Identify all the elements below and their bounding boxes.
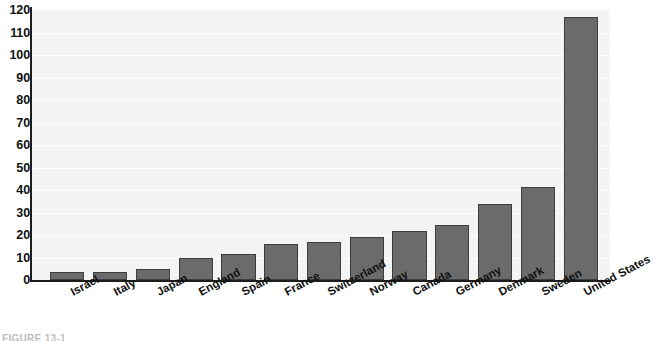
y-axis-tick-label: 80 bbox=[0, 94, 30, 107]
y-axis-tick-label: 100 bbox=[0, 49, 30, 62]
y-axis-tick-label: 10 bbox=[0, 251, 30, 264]
bar bbox=[264, 244, 298, 280]
y-axis-tick-labels: 0102030405060708090100110120 bbox=[0, 0, 30, 290]
bar bbox=[564, 17, 598, 280]
y-axis-tick-label: 60 bbox=[0, 139, 30, 152]
y-axis-tick-label: 110 bbox=[0, 26, 30, 39]
y-axis-tick-label: 70 bbox=[0, 116, 30, 129]
y-axis-tick-label: 120 bbox=[0, 4, 30, 17]
y-axis-tick-label: 90 bbox=[0, 71, 30, 84]
y-axis-tick-label: 40 bbox=[0, 184, 30, 197]
y-axis-tick-label: 20 bbox=[0, 229, 30, 242]
bar bbox=[136, 269, 170, 280]
figure-caption: FIGURE 13-1 bbox=[2, 333, 66, 341]
bar bbox=[50, 272, 84, 280]
x-axis-category-labels: IsraelItalyJapanEnglandSpainFranceSwitze… bbox=[0, 282, 634, 341]
y-axis-tick-label: 50 bbox=[0, 161, 30, 174]
y-axis-tick-label: 30 bbox=[0, 206, 30, 219]
bar-series bbox=[32, 9, 610, 280]
